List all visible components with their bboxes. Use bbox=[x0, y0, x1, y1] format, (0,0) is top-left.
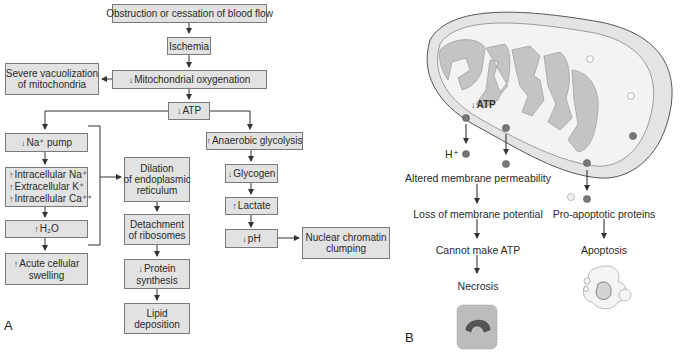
mitochondrion-illustration bbox=[0, 0, 680, 361]
step-necrosis: Necrosis bbox=[400, 280, 556, 292]
apoptotic-cell-icon bbox=[584, 266, 632, 309]
atp-text: ATP bbox=[477, 99, 496, 110]
h-plus-label: H⁺ bbox=[445, 148, 459, 160]
step-loss-membrane-potential: Loss of membrane potential bbox=[400, 208, 556, 220]
step-altered-permeability: Altered membrane permeability bbox=[400, 172, 556, 184]
decrease-arrow-icon: ↓ bbox=[471, 100, 476, 110]
step-pro-apoptotic-proteins: Pro-apoptotic proteins bbox=[550, 208, 658, 220]
necrotic-cell-icon bbox=[457, 305, 497, 349]
panel-label-b: B bbox=[405, 330, 414, 345]
step-cannot-make-atp: Cannot make ATP bbox=[400, 244, 556, 256]
step-apoptosis: Apoptosis bbox=[550, 244, 658, 256]
atp-label: ↓ATP bbox=[471, 99, 496, 110]
